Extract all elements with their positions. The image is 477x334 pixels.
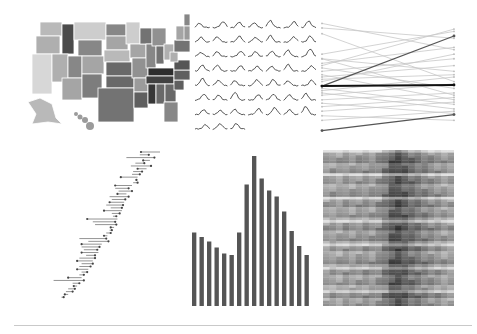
heatmap-cell [389, 249, 396, 252]
heatmap-cell [375, 181, 382, 184]
heatmap-cell [330, 288, 337, 291]
heatmap-cell [375, 179, 382, 182]
heatmap-cell [415, 236, 422, 239]
heatmap-cell [428, 228, 435, 231]
heatmap-cell [447, 236, 454, 239]
heatmap-cell [389, 150, 396, 153]
range-dotplot [48, 150, 164, 300]
heatmap-cell [402, 171, 409, 174]
heatmap-cell [389, 259, 396, 262]
heatmap-cell [382, 215, 389, 218]
heatmap-cell [434, 158, 441, 161]
heatmap-cell [323, 163, 330, 166]
bar-5 [222, 254, 226, 307]
heatmap-cell [395, 192, 402, 195]
heatmap-cell [330, 290, 337, 293]
sparkline [266, 107, 281, 115]
state-or [36, 36, 60, 54]
heatmap-cell [323, 150, 330, 153]
heatmap-cell [434, 298, 441, 301]
heatmap-cell [382, 254, 389, 257]
heatmap-cell [375, 192, 382, 195]
heatmap-cell [402, 249, 409, 252]
heatmap-cell [382, 168, 389, 171]
heatmap-cell [441, 241, 448, 244]
state-mn [126, 22, 140, 44]
heatmap-cell [441, 277, 448, 280]
heatmap-cell [434, 231, 441, 234]
heatmap-cell [343, 184, 350, 187]
heatmap-cell [395, 290, 402, 293]
heatmap-cell [343, 246, 350, 249]
heatmap-cell [428, 173, 435, 176]
heatmap-cell [415, 272, 422, 275]
heatmap-cell [336, 259, 343, 262]
heatmap-cell [434, 210, 441, 213]
heatmap-cell [428, 166, 435, 169]
heatmap-cell [356, 236, 363, 239]
heatmap-cell [415, 205, 422, 208]
heatmap-cell [402, 207, 409, 210]
heatmap-cell [382, 259, 389, 262]
heatmap-cell [369, 184, 376, 187]
heatmap-cell [349, 231, 356, 234]
heatmap-cell [421, 270, 428, 273]
heatmap-cell [349, 262, 356, 265]
heatmap-cell [408, 215, 415, 218]
heatmap-cell [382, 231, 389, 234]
heatmap-cell [375, 272, 382, 275]
heatmap-cell [356, 189, 363, 192]
heatmap-cell [408, 249, 415, 252]
heatmap-cell [395, 272, 402, 275]
heatmap-cell [395, 246, 402, 249]
heatmap-cell [389, 238, 396, 241]
heatmap-cell [362, 264, 369, 267]
heatmap-cell [330, 246, 337, 249]
heatmap-cell [389, 254, 396, 257]
heatmap-cell [441, 246, 448, 249]
heatmap-cell [434, 296, 441, 299]
heatmap-cell [362, 259, 369, 262]
heatmap-cell [441, 231, 448, 234]
heatmap-cell [395, 301, 402, 304]
heatmap-cell [349, 238, 356, 241]
heatmap-cell [434, 285, 441, 288]
heatmap-cell [349, 272, 356, 275]
heatmap-cell [434, 179, 441, 182]
heatmap-cell [434, 272, 441, 275]
heatmap-cell [408, 210, 415, 213]
heatmap-cell [395, 254, 402, 257]
heatmap-cell [369, 301, 376, 304]
heatmap-cell [375, 212, 382, 215]
heatmap-cell [421, 257, 428, 260]
heatmap-cell [356, 283, 363, 286]
heatmap-cell [421, 241, 428, 244]
heatmap-cell [421, 272, 428, 275]
heatmap-cell [369, 202, 376, 205]
heatmap-cell [408, 303, 415, 306]
heatmap-cell [356, 233, 363, 236]
heatmap-cell [428, 207, 435, 210]
heatmap-cell [336, 215, 343, 218]
heatmap-cell [343, 283, 350, 286]
slope-line [322, 111, 454, 120]
heatmap-cell [389, 280, 396, 283]
heatmap-cell [349, 205, 356, 208]
heatmap-cell [362, 176, 369, 179]
sparkline [301, 66, 316, 72]
heatmap-cell [369, 285, 376, 288]
bar-10 [260, 179, 264, 307]
heatmap-cell [356, 290, 363, 293]
heatmap-cell [415, 212, 422, 215]
heatmap-cell [408, 283, 415, 286]
heatmap-cell [336, 194, 343, 197]
heatmap-cell [362, 218, 369, 221]
heatmap-cell [375, 160, 382, 163]
heatmap-cell [441, 223, 448, 226]
heatmap-cell [362, 199, 369, 202]
sparkline [213, 95, 228, 100]
heatmap-cell [343, 301, 350, 304]
heatmap-cell [369, 210, 376, 213]
heatmap-cell [362, 285, 369, 288]
heatmap-cell [349, 163, 356, 166]
